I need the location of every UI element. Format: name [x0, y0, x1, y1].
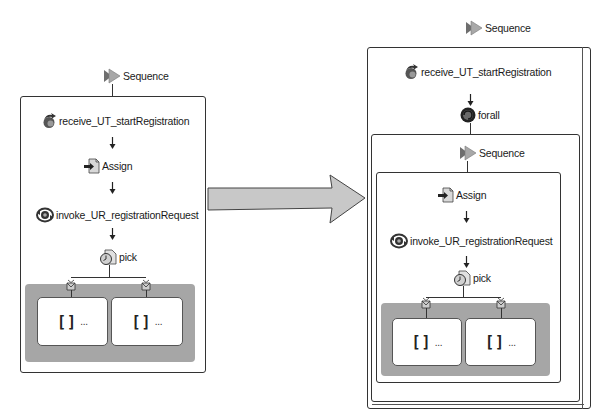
outer-sequence-label: Sequence — [485, 22, 531, 34]
receive-node[interactable]: receive_UT_startRegistration — [41, 113, 189, 129]
receive-icon — [403, 64, 419, 80]
ellipsis: ... — [435, 337, 443, 348]
sequence-icon — [465, 20, 483, 36]
branch-cell[interactable]: [] ... — [465, 318, 536, 366]
pick-label: pick — [119, 251, 137, 263]
empty-activity-icon: [] — [132, 313, 152, 331]
flow-arrow-icon — [108, 137, 117, 149]
invoke-node[interactable]: invoke_UR_registrationRequest — [36, 207, 198, 223]
receive-icon — [41, 113, 57, 129]
invoke-label: invoke_UR_registrationRequest — [410, 235, 552, 247]
border-shadow — [582, 47, 583, 409]
assign-node[interactable]: Assign — [438, 187, 486, 203]
empty-activity-icon: [] — [485, 333, 505, 351]
flow-arrow-icon — [466, 94, 475, 106]
right-arrow-icon — [205, 170, 365, 230]
pick-node[interactable]: pick — [453, 270, 491, 286]
outer-sequence-node[interactable]: Sequence — [465, 20, 531, 36]
receive-label: receive_UT_startRegistration — [59, 115, 189, 127]
branch-cell[interactable]: [] ... — [37, 297, 108, 346]
receive-label: receive_UT_startRegistration — [421, 66, 551, 78]
assign-label: Assign — [456, 189, 486, 201]
connector — [501, 308, 502, 318]
pick-icon — [453, 270, 471, 286]
sequence-icon — [103, 68, 121, 84]
connector — [71, 277, 146, 278]
ellipsis: ... — [508, 337, 516, 348]
flow-arrow-icon — [108, 182, 117, 194]
sequence-node[interactable]: Sequence — [103, 68, 169, 84]
pick-node[interactable]: pick — [99, 249, 137, 265]
assign-label: Assign — [102, 160, 132, 172]
border-shadow — [372, 404, 584, 405]
forall-node[interactable]: forall — [460, 107, 500, 123]
assign-icon — [84, 158, 100, 174]
invoke-icon — [36, 207, 54, 223]
inner-sequence-node[interactable]: Sequence — [459, 145, 525, 161]
sequence-icon — [459, 145, 477, 161]
invoke-label: invoke_UR_registrationRequest — [56, 209, 198, 221]
branch-cell[interactable]: [] ... — [392, 318, 462, 366]
sequence-label: Sequence — [123, 70, 169, 82]
ellipsis: ... — [80, 316, 88, 327]
pick-label: pick — [473, 272, 491, 284]
assign-node[interactable]: Assign — [84, 158, 132, 174]
connector — [426, 308, 427, 318]
inner-sequence-label: Sequence — [479, 147, 525, 159]
connector — [426, 297, 501, 298]
branch-cell[interactable]: [] ... — [111, 297, 183, 346]
invoke-node[interactable]: invoke_UR_registrationRequest — [390, 233, 552, 249]
forall-icon — [460, 107, 476, 123]
flow-arrow-icon — [462, 256, 471, 268]
invoke-icon — [390, 233, 408, 249]
connector — [463, 286, 464, 297]
flow-arrow-icon — [462, 211, 471, 223]
ellipsis: ... — [155, 316, 163, 327]
empty-activity-icon: [] — [412, 333, 432, 351]
flow-arrow-icon — [108, 228, 117, 240]
forall-label: forall — [478, 109, 500, 121]
receive-node[interactable]: receive_UT_startRegistration — [403, 64, 551, 80]
empty-activity-icon: [] — [57, 313, 77, 331]
connector — [109, 265, 110, 277]
pick-icon — [99, 249, 117, 265]
assign-icon — [438, 187, 454, 203]
